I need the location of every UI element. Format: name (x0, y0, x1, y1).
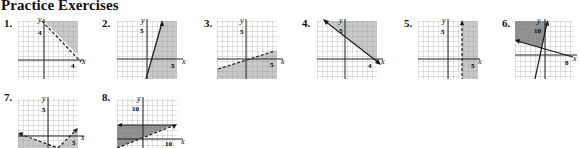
y-tick-label: 5 (140, 27, 144, 35)
graph-6: y x 10 8 (511, 17, 580, 79)
exercise-5: 5. y x 5 5 (400, 17, 490, 79)
page-title: Practice Exercises (1, 0, 119, 14)
graph-4: y x 5 4 (313, 17, 388, 79)
graph-5: y x 5 5 (414, 17, 484, 79)
x-axis-label: x (477, 57, 482, 66)
y-axis-label: y (37, 17, 42, 24)
y-tick-label: 5 (42, 106, 46, 114)
graph-3: y x 5 5 (213, 17, 288, 79)
exercise-number: 1. (4, 17, 12, 29)
graph-8: y x 10 10 (113, 91, 191, 148)
y-axis-label: y (441, 17, 446, 25)
y-tick-label: 5 (339, 27, 343, 35)
y-axis-label: y (338, 17, 343, 25)
x-tick-label: 5 (471, 62, 475, 70)
exercise-number: 2. (102, 17, 110, 29)
exercise-number: 5. (404, 17, 412, 29)
y-axis-label: y (536, 17, 541, 25)
exercise-8: 8. y x 10 10 (98, 91, 193, 148)
x-tick-label: 5 (72, 139, 76, 147)
x-tick-label: 8 (565, 59, 569, 67)
x-axis-label: x (81, 57, 86, 66)
x-tick-label: 10 (165, 140, 173, 148)
x-tick-label: 5 (171, 62, 175, 70)
y-axis-label: y (41, 94, 46, 103)
y-tick-label: 4 (38, 29, 42, 37)
x-axis-label: x (181, 57, 186, 66)
exercise-1: 1. y x 4 4 (0, 17, 95, 79)
exercise-3: 3. y x 5 5 (200, 17, 295, 79)
y-axis-label: y (140, 17, 145, 25)
x-axis-label: x (280, 57, 285, 66)
exercise-2: 2. y x 5 5 (98, 17, 193, 79)
exercise-number: 3. (204, 17, 212, 29)
y-axis-label: y (136, 94, 141, 103)
x-tick-label: 4 (368, 62, 372, 70)
y-tick-label: 5 (441, 28, 445, 36)
exercise-number: 4. (302, 17, 310, 29)
x-axis-label: x (572, 54, 577, 63)
exercise-number: 8. (102, 91, 110, 103)
x-tick-label: 5 (270, 61, 274, 69)
y-axis-label: y (239, 17, 244, 25)
x-tick-label: 4 (71, 62, 75, 70)
x-axis-label: x (380, 57, 385, 66)
exercise-6: 6. y x 10 8 (498, 17, 580, 79)
y-tick-label: 10 (534, 27, 542, 35)
graph-7: y x 5 5 (14, 91, 86, 148)
exercise-7: 7. y x 5 5 (0, 91, 95, 148)
y-tick-label: 5 (240, 28, 244, 36)
exercise-number: 7. (4, 91, 12, 103)
y-tick-label: 10 (132, 105, 140, 113)
x-axis-label: x (180, 137, 185, 146)
graph-1: y x 4 4 (14, 17, 86, 79)
exercise-4: 4. y x 5 4 (298, 17, 388, 79)
exercise-number: 6. (502, 17, 510, 29)
x-axis-label: x (80, 133, 85, 142)
graph-2: y x 5 5 (113, 17, 188, 79)
